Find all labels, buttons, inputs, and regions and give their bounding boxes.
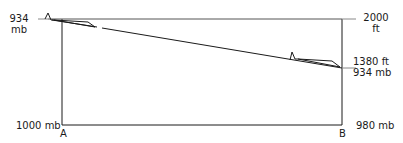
bottom-right-pressure: 980 mb — [356, 120, 394, 131]
right-top-value: 2000 — [358, 12, 394, 23]
front-symbol-right — [290, 52, 340, 67]
right-mid-label: 1380 ft 934 mb — [353, 56, 391, 78]
point-a-label: A — [60, 128, 67, 139]
right-top-height-label: 2000 ft — [358, 12, 394, 34]
right-mid-pressure: 934 mb — [353, 67, 391, 78]
right-top-unit: ft — [358, 23, 394, 34]
left-top-value: 934 — [4, 13, 34, 24]
left-top-unit: mb — [4, 24, 34, 35]
left-top-pressure-label: 934 mb — [4, 13, 34, 35]
point-b-label: B — [339, 128, 346, 139]
front-symbol-left — [45, 13, 95, 27]
right-mid-height: 1380 ft — [353, 56, 391, 67]
bottom-left-pressure: 1000 mb — [16, 120, 61, 131]
isobar-934mb-right-segment — [102, 28, 342, 68]
